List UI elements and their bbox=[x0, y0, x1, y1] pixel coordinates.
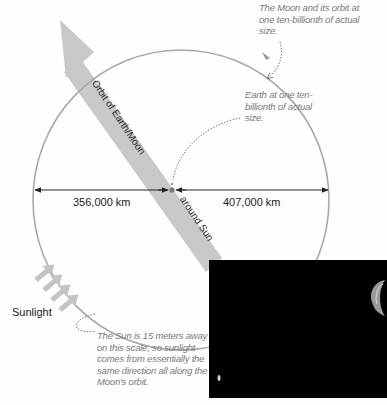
moon-orbit-note: The Moon and its orbit at one ten-billio… bbox=[259, 2, 371, 37]
earth-note-leader bbox=[173, 118, 240, 180]
moon-dot-icon bbox=[218, 375, 221, 381]
moon-note-leader bbox=[268, 42, 282, 78]
distance-right-label: 407,000 km bbox=[223, 196, 280, 208]
earth-moon-photo bbox=[209, 260, 387, 398]
earth-moon-scale-diagram: Orbit of Earth/Moon around Sun 356,000 k… bbox=[0, 0, 387, 405]
earth-crescent-icon bbox=[371, 280, 385, 316]
sunlight-label: Sunlight bbox=[12, 306, 52, 318]
sun-note-leader bbox=[76, 314, 96, 332]
sun-note: The Sun is 15 meters away on this scale,… bbox=[97, 330, 213, 388]
earth-note: Earth at one ten-billionth of actual siz… bbox=[245, 89, 325, 124]
photo-content bbox=[209, 260, 387, 398]
orbit-direction-arrow-icon bbox=[262, 52, 270, 60]
distance-left-label: 356,000 km bbox=[73, 196, 130, 208]
earth-dot bbox=[169, 187, 174, 192]
